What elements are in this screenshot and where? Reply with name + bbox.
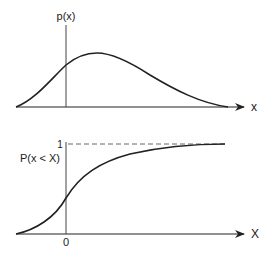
density-plot: p(x) x [16, 10, 257, 114]
distribution-diagram: p(x) x 1 P(x < X) 0 X [0, 0, 271, 257]
bottom-y-label: P(x < X) [20, 152, 60, 164]
top-x-label: x [251, 100, 257, 114]
x-tick-zero: 0 [63, 236, 69, 248]
density-curve [16, 53, 228, 107]
cumulative-plot: 1 P(x < X) 0 X [16, 139, 259, 248]
y-tick-one: 1 [57, 139, 63, 150]
top-y-label: p(x) [57, 10, 76, 22]
bottom-x-label: X [251, 227, 259, 241]
